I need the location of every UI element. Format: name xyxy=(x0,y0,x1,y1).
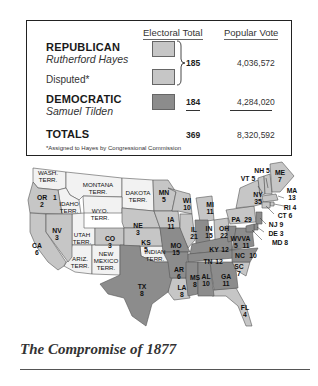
state-NJ xyxy=(256,212,262,224)
republican-electoral-total: 185 xyxy=(186,58,200,68)
svg-text:WV: WV xyxy=(231,235,242,242)
svg-text:CO: CO xyxy=(105,235,115,242)
svg-text:MN: MN xyxy=(159,189,170,196)
svg-text:AL: AL xyxy=(201,273,210,280)
svg-text:3: 3 xyxy=(55,234,59,241)
svg-text:MO: MO xyxy=(171,242,182,249)
democratic-popular-vote: 4,284,020 xyxy=(237,97,275,107)
svg-text:5: 5 xyxy=(162,196,166,203)
election-results-legend: Electoral Total Popular Vote REPUBLICAN … xyxy=(26,20,292,156)
svg-text:TX: TX xyxy=(138,283,147,290)
newmex-terr-label2: MEXICO xyxy=(94,257,119,264)
svg-text:ME: ME xyxy=(275,169,286,176)
svg-text:1: 1 xyxy=(53,194,57,201)
svg-text:GA: GA xyxy=(221,273,231,280)
idaho-terr-label: IDAHO xyxy=(59,200,79,207)
svg-text:12: 12 xyxy=(215,258,223,265)
svg-text:SC: SC xyxy=(234,263,244,270)
newmex-terr-label: NEW xyxy=(99,250,114,257)
svg-text:KY: KY xyxy=(209,246,219,253)
electoral-sum-underline xyxy=(186,110,200,111)
disputed-label: Disputed* xyxy=(46,74,89,85)
svg-text:MD 8: MD 8 xyxy=(272,239,288,246)
svg-text:11: 11 xyxy=(242,242,249,249)
wash-terr-label2: TERR. xyxy=(39,176,58,183)
republican-color-swatch xyxy=(152,41,175,57)
svg-text:10: 10 xyxy=(183,204,191,211)
svg-text:21: 21 xyxy=(190,233,198,240)
svg-text:FL: FL xyxy=(241,304,249,311)
svg-text:MI: MI xyxy=(206,201,214,208)
democratic-electoral-total: 184 xyxy=(186,97,200,107)
caption-rule xyxy=(20,369,310,370)
utah-terr-label: UTAH xyxy=(74,231,90,238)
wyo-terr-label: WYO. xyxy=(92,207,109,214)
total-popular-vote: 8,320,592 xyxy=(237,130,275,140)
democratic-candidate: Samuel Tilden xyxy=(46,105,113,117)
svg-text:PA: PA xyxy=(232,216,241,223)
footnote: *Assigned to Hayes by Congressional Comm… xyxy=(46,145,181,151)
ariz-terr-label: ARIZ. xyxy=(72,255,88,262)
svg-text:OH: OH xyxy=(219,225,229,232)
svg-text:LA: LA xyxy=(177,284,186,291)
montana-terr-label: MONTANA xyxy=(83,181,114,188)
svg-text:NE: NE xyxy=(133,222,143,229)
svg-text:CT 6: CT 6 xyxy=(278,212,293,219)
svg-text:NV: NV xyxy=(52,227,62,234)
svg-text:35: 35 xyxy=(254,198,262,205)
svg-text:10: 10 xyxy=(249,252,257,259)
svg-text:NJ 9: NJ 9 xyxy=(269,221,284,228)
brace-icon xyxy=(176,40,186,86)
svg-text:DE 3: DE 3 xyxy=(268,230,283,237)
svg-text:NY: NY xyxy=(253,191,263,198)
svg-text:2: 2 xyxy=(40,201,44,208)
svg-text:13: 13 xyxy=(288,194,296,201)
idaho-terr-label2: TERR. xyxy=(60,207,79,214)
indian-terr-label2: TERR. xyxy=(146,255,165,262)
utah-terr-label2: TERR. xyxy=(73,238,92,245)
montana-terr-label2: TERR. xyxy=(89,188,108,195)
svg-text:15: 15 xyxy=(205,232,213,239)
svg-text:22: 22 xyxy=(220,232,228,239)
svg-text:KS: KS xyxy=(141,239,151,246)
svg-text:CA: CA xyxy=(32,242,42,249)
svg-text:3: 3 xyxy=(108,242,112,249)
democratic-color-swatch xyxy=(152,94,175,110)
democratic-party-label: DEMOCRATIC xyxy=(46,93,122,105)
svg-text:RI 4: RI 4 xyxy=(284,204,297,211)
svg-text:10: 10 xyxy=(202,280,210,287)
svg-text:NC: NC xyxy=(235,252,245,259)
svg-text:5: 5 xyxy=(144,246,148,253)
wyo-terr-label2: TERR. xyxy=(91,214,110,221)
total-electoral-votes: 369 xyxy=(186,130,200,140)
popular-sum-underline xyxy=(230,110,272,111)
svg-text:IL: IL xyxy=(191,226,197,233)
svg-text:5: 5 xyxy=(234,242,238,249)
svg-text:IN: IN xyxy=(206,225,213,232)
totals-label: TOTALS xyxy=(46,128,89,140)
us-electoral-map: WASH. TERR. MONTANA TERR. DAKOTA TERR. I… xyxy=(0,160,318,335)
newmex-terr-label3: TERR. xyxy=(97,264,116,271)
electoral-total-header: Electoral Total xyxy=(143,27,203,40)
svg-text:VT 5: VT 5 xyxy=(241,175,256,182)
dakota-terr-label2: TERR. xyxy=(129,196,148,203)
svg-text:11: 11 xyxy=(167,223,174,230)
svg-text:MS: MS xyxy=(190,274,201,281)
republican-candidate: Rutherford Hayes xyxy=(46,53,128,65)
svg-text:4: 4 xyxy=(243,311,247,318)
state-CT xyxy=(262,202,270,208)
state-MA xyxy=(262,194,278,202)
disputed-color-swatch xyxy=(152,69,175,85)
svg-text:6: 6 xyxy=(35,249,39,256)
svg-text:AR: AR xyxy=(174,266,184,273)
map-caption: The Compromise of 1877 xyxy=(20,341,176,358)
svg-text:29: 29 xyxy=(244,216,252,223)
svg-text:MA: MA xyxy=(287,187,298,194)
ariz-terr-label2: TERR. xyxy=(71,262,90,269)
svg-text:NH 5: NH 5 xyxy=(254,167,270,174)
svg-text:WI: WI xyxy=(183,197,191,204)
svg-text:3: 3 xyxy=(136,229,140,236)
svg-text:OR: OR xyxy=(37,194,47,201)
state-RI xyxy=(270,202,274,206)
svg-text:15: 15 xyxy=(172,249,180,256)
